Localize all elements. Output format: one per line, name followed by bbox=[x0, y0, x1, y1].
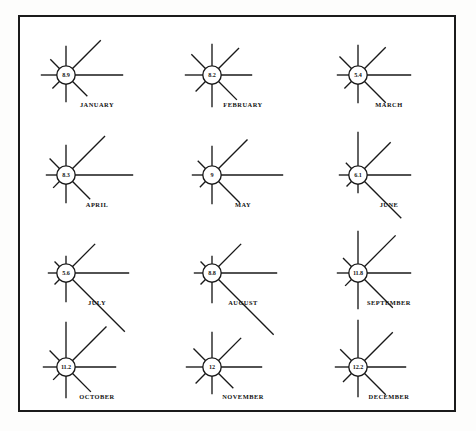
wind-rose-diagram bbox=[170, 231, 316, 330]
wind-rose-center-value: 11.8 bbox=[338, 270, 378, 276]
wind-rose-month-label: JANUARY bbox=[24, 102, 170, 108]
wind-rose-june: 6.1JUNE bbox=[316, 133, 462, 232]
wind-rose-ray-sw bbox=[52, 81, 60, 89]
wind-rose-center-value: 5.6 bbox=[46, 270, 86, 276]
wind-rose-diagram bbox=[24, 231, 170, 330]
wind-rose-ray-se bbox=[364, 181, 401, 218]
wind-rose-august: 8.8AUGUST bbox=[170, 231, 316, 330]
wind-rose-center-value: 9 bbox=[192, 172, 232, 178]
wind-rose-month-label: JULY bbox=[24, 300, 170, 306]
wind-rose-grid: 8.9JANUARY8.2FEBRUARY5.4MARCH8.3APRIL9MA… bbox=[20, 17, 458, 414]
wind-rose-ray-se bbox=[218, 181, 240, 203]
wind-rose-ray-sw bbox=[53, 373, 60, 380]
wind-rose-ray-se bbox=[364, 81, 386, 103]
wind-rose-may: 9MAY bbox=[170, 133, 316, 232]
wind-rose-ray-se bbox=[218, 81, 237, 100]
wind-rose-diagram bbox=[170, 133, 316, 232]
wind-rose-ray-ne bbox=[218, 338, 241, 361]
wind-rose-november: 12NOVEMBER bbox=[170, 325, 316, 424]
wind-rose-ray-nw bbox=[346, 163, 352, 169]
wind-rose-diagram bbox=[24, 133, 170, 232]
wind-rose-july: 5.6JULY bbox=[24, 231, 170, 330]
wind-rose-diagram bbox=[170, 33, 316, 132]
wind-rose-ray-se bbox=[72, 81, 87, 96]
wind-rose-center-value: 5.4 bbox=[338, 72, 378, 78]
wind-rose-ray-nw bbox=[191, 54, 206, 69]
wind-rose-december: 12.2DECEMBER bbox=[316, 325, 462, 424]
wind-rose-month-label: JUNE bbox=[316, 202, 462, 208]
wind-rose-center-value: 11.2 bbox=[46, 364, 86, 370]
wind-rose-diagram bbox=[24, 325, 170, 424]
wind-rose-center-value: 8.8 bbox=[192, 270, 232, 276]
wind-rose-ray-sw bbox=[196, 81, 206, 91]
wind-rose-ray-ne bbox=[72, 327, 106, 361]
figure-border-frame: 8.9JANUARY8.2FEBRUARY5.4MARCH8.3APRIL9MA… bbox=[18, 15, 456, 412]
wind-rose-center-value: 12 bbox=[192, 364, 232, 370]
wind-rose-center-value: 8.3 bbox=[46, 172, 86, 178]
wind-rose-diagram bbox=[316, 33, 462, 132]
wind-rose-center-value: 12.2 bbox=[338, 364, 378, 370]
wind-rose-ray-se bbox=[364, 373, 386, 395]
wind-rose-ray-sw bbox=[345, 279, 352, 286]
wind-rose-month-label: NOVEMBER bbox=[170, 394, 316, 400]
wind-rose-center-value: 8.2 bbox=[192, 72, 232, 78]
wind-rose-month-label: APRIL bbox=[24, 202, 170, 208]
wind-rose-month-label: SEPTEMBER bbox=[316, 300, 462, 306]
wind-rose-month-label: MAY bbox=[170, 202, 316, 208]
wind-rose-center-value: 6.1 bbox=[338, 172, 378, 178]
wind-rose-september: 11.8SEPTEMBER bbox=[316, 231, 462, 330]
wind-rose-ray-ne bbox=[218, 48, 239, 69]
wind-rose-ray-sw bbox=[53, 181, 60, 188]
wind-rose-march: 5.4MARCH bbox=[316, 33, 462, 132]
wind-rose-ray-ne bbox=[364, 235, 396, 267]
wind-rose-ray-nw bbox=[339, 56, 351, 68]
wind-rose-ray-ne bbox=[218, 244, 241, 267]
wind-rose-january: 8.9JANUARY bbox=[24, 33, 170, 132]
wind-rose-diagram bbox=[316, 325, 462, 424]
wind-rose-ray-sw bbox=[343, 373, 352, 382]
wind-rose-ray-nw bbox=[198, 161, 206, 169]
wind-rose-april: 8.3APRIL bbox=[24, 133, 170, 232]
wind-rose-month-label: OCTOBER bbox=[24, 394, 170, 400]
wind-rose-ray-se bbox=[72, 181, 90, 199]
wind-rose-diagram bbox=[316, 133, 462, 232]
wind-rose-ray-nw bbox=[343, 258, 352, 267]
wind-rose-ray-ne bbox=[218, 140, 247, 169]
wind-rose-ray-nw bbox=[50, 159, 60, 169]
wind-rose-ray-nw bbox=[50, 351, 60, 361]
wind-rose-ray-nw bbox=[340, 349, 352, 361]
wind-rose-month-label: DECEMBER bbox=[316, 394, 462, 400]
wind-rose-ray-se bbox=[218, 373, 233, 388]
wind-rose-ray-sw bbox=[196, 373, 206, 383]
wind-rose-ray-ne bbox=[72, 40, 101, 69]
wind-rose-ray-sw bbox=[344, 81, 351, 89]
wind-rose-month-label: FEBRUARY bbox=[170, 102, 316, 108]
wind-rose-ray-ne bbox=[72, 136, 105, 169]
wind-rose-october: 11.2OCTOBER bbox=[24, 325, 170, 424]
wind-rose-center-value: 8.9 bbox=[46, 72, 86, 78]
wind-rose-month-label: MARCH bbox=[316, 102, 462, 108]
figure-sheet: 8.9JANUARY8.2FEBRUARY5.4MARCH8.3APRIL9MA… bbox=[0, 0, 476, 431]
wind-rose-ray-ne bbox=[364, 332, 393, 361]
wind-rose-ray-ne bbox=[364, 142, 391, 169]
wind-rose-month-label: AUGUST bbox=[170, 300, 316, 306]
wind-rose-ray-sw bbox=[200, 181, 206, 187]
wind-rose-diagram bbox=[316, 231, 462, 330]
wind-rose-ray-ne bbox=[364, 47, 386, 69]
wind-rose-diagram bbox=[24, 33, 170, 132]
wind-rose-ray-nw bbox=[193, 348, 205, 360]
wind-rose-ray-se bbox=[72, 373, 91, 392]
wind-rose-diagram bbox=[170, 325, 316, 424]
wind-rose-ray-nw bbox=[50, 59, 60, 69]
wind-rose-february: 8.2FEBRUARY bbox=[170, 33, 316, 132]
wind-rose-ray-ne bbox=[72, 244, 95, 267]
